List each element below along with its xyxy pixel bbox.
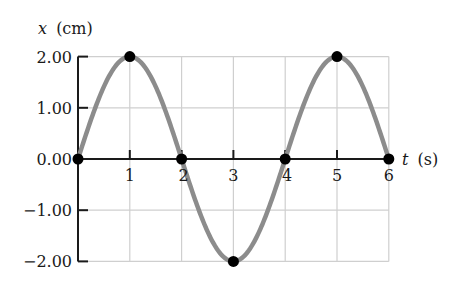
x-tick-label: 6 (384, 166, 394, 185)
data-point (176, 154, 187, 165)
x-axis-unit: (s) (418, 150, 439, 169)
y-axis-title: x (cm) (38, 19, 93, 38)
x-tick-label: 4 (282, 166, 292, 185)
data-point (332, 51, 343, 62)
y-axis-unit: (cm) (56, 19, 93, 38)
x-tick-label: 5 (332, 166, 342, 185)
x-tick-label: 1 (125, 166, 135, 185)
data-point (280, 154, 291, 165)
x-axis-variable: t (402, 150, 409, 169)
x-axis-title: t (s) (402, 150, 438, 169)
data-point (73, 154, 84, 165)
position-time-graph: 2.001.000.00−1.00−2.00 123456 x (cm) t (… (0, 0, 453, 285)
y-tick-label: 2.00 (36, 48, 72, 67)
data-point (383, 154, 394, 165)
x-tick-labels: 123456 (125, 166, 394, 185)
y-tick-label: −2.00 (23, 252, 72, 271)
y-tick-label: −1.00 (23, 201, 72, 220)
y-tick-labels: 2.001.000.00−1.00−2.00 (23, 48, 72, 272)
x-tick-label: 2 (179, 166, 189, 185)
y-axis-variable: x (38, 19, 47, 38)
y-tick-label: 1.00 (36, 99, 72, 118)
data-point (124, 51, 135, 62)
data-point (228, 256, 239, 267)
y-tick-label: 0.00 (36, 150, 72, 169)
x-tick-label: 3 (228, 166, 238, 185)
